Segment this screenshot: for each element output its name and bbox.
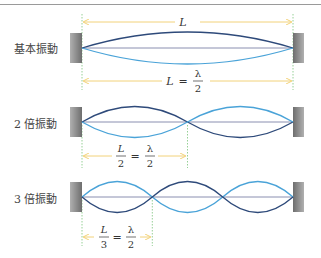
right-wall [293, 107, 304, 137]
left-wall [70, 107, 82, 137]
wave-dark [82, 32, 293, 48]
right-wall [293, 33, 304, 63]
formula-L-eq-lambda-over-2: L = λ 2 [165, 68, 203, 94]
svg-text:3: 3 [101, 239, 107, 250]
second-harmonic-mode: L 2 = λ 2 [70, 107, 304, 170]
svg-text:=: = [178, 75, 187, 88]
svg-text:=: = [130, 150, 139, 163]
svg-text:L: L [100, 224, 108, 235]
svg-text:λ: λ [128, 224, 135, 235]
svg-text:L: L [165, 75, 173, 88]
svg-text:=: = [112, 231, 121, 244]
length-L-label: L [178, 16, 186, 29]
third-harmonic-mode: L 3 = λ 2 [70, 182, 304, 251]
right-wall [293, 182, 304, 212]
svg-text:2: 2 [118, 158, 124, 169]
wave-light [82, 48, 293, 64]
formula-L-over-3-eq-lambda-over-2: L 3 = λ 2 [99, 224, 136, 250]
fundamental-mode: L L = λ 2 [70, 14, 304, 94]
svg-text:2: 2 [195, 83, 201, 94]
left-wall [70, 33, 82, 63]
left-wall [70, 182, 82, 212]
svg-text:λ: λ [147, 143, 154, 154]
svg-text:2: 2 [147, 158, 153, 169]
svg-text:L: L [117, 143, 125, 154]
formula-L-over-2-eq-lambda-over-2: L 2 = λ 2 [116, 143, 155, 169]
svg-text:λ: λ [195, 68, 202, 79]
svg-text:2: 2 [128, 239, 134, 250]
standing-wave-diagram: L L = λ 2 L 2 = λ 2 [0, 0, 321, 258]
